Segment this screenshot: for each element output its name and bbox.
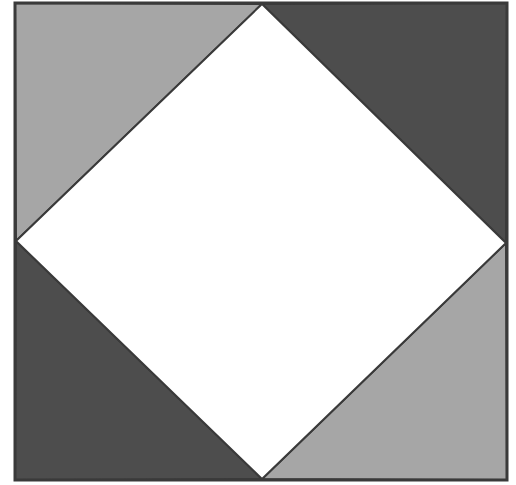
square-in-square-diagram [0,0,516,485]
